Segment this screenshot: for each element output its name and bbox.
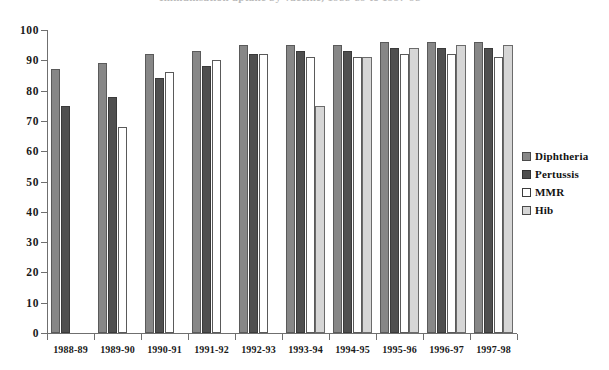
x-axis-tick: [376, 334, 377, 340]
bar-mmr-1994-95: [353, 57, 362, 333]
legend-swatch-mmr-icon: [522, 188, 531, 197]
bar-pertussis-1994-95: [343, 51, 352, 333]
y-axis-label: 30: [0, 236, 39, 248]
y-axis-label: 60: [0, 145, 39, 157]
y-axis-label-text: 70: [9, 115, 39, 127]
chart-legend: DiphtheriaPertussisMMRHib: [522, 148, 607, 220]
bar-pertussis-1992-93: [249, 54, 258, 333]
bar-diphtheria-1990-91: [145, 54, 154, 333]
x-axis-tick: [188, 334, 189, 340]
bar-mmr-1992-93: [259, 54, 268, 333]
x-axis-tick: [329, 334, 330, 340]
y-axis-label: 40: [0, 206, 39, 218]
y-axis-label: 10: [0, 297, 39, 309]
bar-pertussis-1997-98: [484, 48, 493, 333]
y-axis-label-text: 60: [9, 145, 39, 157]
x-axis-tick: [141, 334, 142, 340]
bar-mmr-1991-92: [212, 60, 221, 333]
y-axis-label: 100: [0, 24, 39, 36]
x-axis-tick: [47, 334, 48, 340]
bar-diphtheria-1991-92: [192, 51, 201, 333]
y-axis-label-text: 100: [9, 24, 39, 36]
legend-label: MMR: [535, 186, 564, 198]
bar-mmr-1995-96: [400, 54, 409, 333]
bar-diphtheria-1992-93: [239, 45, 248, 333]
bar-pertussis-1996-97: [437, 48, 446, 333]
x-axis-tick: [94, 334, 95, 340]
bar-mmr-1989-90: [118, 127, 127, 333]
bar-hib-1995-96: [409, 48, 418, 333]
chart-title: Immunisation uptake by vaccine, 1988-89 …: [120, 0, 460, 5]
bar-pertussis-1989-90: [108, 97, 117, 333]
x-axis-tick: [235, 334, 236, 340]
y-axis-label: 90: [0, 54, 39, 66]
bar-diphtheria-1996-97: [427, 42, 436, 333]
bar-diphtheria-1997-98: [474, 42, 483, 333]
legend-swatch-pertussis-icon: [522, 170, 531, 179]
y-axis-label: 70: [0, 115, 39, 127]
y-axis-label-text: 30: [9, 236, 39, 248]
bar-mmr-1997-98: [494, 57, 503, 333]
y-axis-label-text: 80: [9, 85, 39, 97]
y-axis-label-text: 50: [9, 176, 39, 188]
bar-hib-1997-98: [503, 45, 512, 333]
x-axis-tick: [423, 334, 424, 340]
legend-item-hib: Hib: [522, 202, 607, 218]
bar-diphtheria-1995-96: [380, 42, 389, 333]
bar-mmr-1990-91: [165, 72, 174, 333]
y-axis-label: 50: [0, 176, 39, 188]
bar-mmr-1993-94: [306, 57, 315, 333]
x-axis-tick: [282, 334, 283, 340]
y-axis-label: 0: [0, 327, 39, 339]
bar-pertussis-1991-92: [202, 66, 211, 333]
legend-swatch-diphtheria-icon: [522, 152, 531, 161]
y-axis-label-text: 90: [9, 54, 39, 66]
bar-pertussis-1995-96: [390, 48, 399, 333]
y-axis-label-text: 0: [9, 327, 39, 339]
legend-item-diphtheria: Diphtheria: [522, 148, 607, 164]
y-axis-label: 80: [0, 85, 39, 97]
legend-label: Diphtheria: [535, 150, 588, 162]
plot-area: [47, 30, 517, 333]
y-axis-label-text: 10: [9, 297, 39, 309]
bar-diphtheria-1988-89: [51, 69, 60, 333]
bar-diphtheria-1993-94: [286, 45, 295, 333]
y-axis-label: 20: [0, 266, 39, 278]
legend-item-pertussis: Pertussis: [522, 166, 607, 182]
x-axis-tick: [470, 334, 471, 340]
legend-label: Pertussis: [535, 168, 579, 180]
bar-diphtheria-1994-95: [333, 45, 342, 333]
bar-diphtheria-1989-90: [98, 63, 107, 333]
bar-mmr-1996-97: [447, 54, 456, 333]
bar-pertussis-1993-94: [296, 51, 305, 333]
bar-hib-1996-97: [456, 45, 465, 333]
y-axis-label-text: 20: [9, 266, 39, 278]
legend-label: Hib: [535, 204, 553, 216]
bar-hib-1993-94: [315, 106, 324, 333]
bar-hib-1994-95: [362, 57, 371, 333]
bar-chart: Immunisation uptake by vaccine, 1988-89 …: [0, 0, 609, 370]
legend-swatch-hib-icon: [522, 206, 531, 215]
x-axis-tick: [517, 334, 518, 340]
bar-pertussis-1988-89: [61, 106, 70, 333]
bar-pertussis-1990-91: [155, 78, 164, 333]
y-axis-label-text: 40: [9, 206, 39, 218]
x-axis-label: 1997-98: [464, 344, 524, 355]
legend-item-mmr: MMR: [522, 184, 607, 200]
